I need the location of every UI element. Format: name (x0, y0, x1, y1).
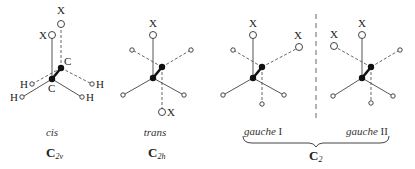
h-atom-back-right (90, 82, 94, 86)
h-atom-front-left (20, 95, 24, 99)
x-label-front: X (39, 29, 47, 41)
trans-conformer: X X trans C2h (121, 17, 193, 161)
c-label-front: C (48, 82, 55, 94)
front-bond-right (153, 78, 182, 94)
x-atom-front (250, 32, 257, 39)
gauche-point-group: C2 (309, 148, 322, 164)
conformer-diagram: X X C C H H H H cis C2v X X trans C2h (0, 0, 415, 169)
h-atom-front-left (121, 93, 125, 97)
gauche-2-name: gauche II (346, 125, 388, 137)
h-label-back-right: H (96, 78, 104, 90)
gauche-2-conformer: X X gauche II (330, 17, 402, 137)
front-carbon-atom (359, 75, 365, 81)
h-atom-back-right (398, 48, 402, 52)
cis-name: cis (46, 126, 58, 138)
back-bond-right (61, 68, 90, 83)
front-carbon-atom (150, 75, 156, 81)
back-bond-left (34, 68, 61, 83)
back-bond-upper-left (235, 51, 262, 67)
front-bond-right (52, 79, 80, 96)
h-label-front-right: H (86, 91, 94, 103)
front-carbon-atom (250, 75, 256, 81)
gauche-1-conformer: X X gauche I (221, 17, 303, 137)
x-atom-back (296, 44, 303, 51)
h-label-back-left: H (20, 78, 28, 90)
front-bond-right (362, 78, 391, 95)
x-label-front: X (249, 17, 257, 29)
h-label-front-left: H (10, 91, 18, 103)
x-atom-front (49, 32, 56, 39)
h-atom-front-right (80, 95, 84, 99)
x-label-back: X (167, 106, 175, 118)
x-label-back: X (57, 4, 65, 16)
back-carbon-atom (159, 64, 165, 70)
front-bond-left (125, 78, 153, 94)
front-bond-left (335, 78, 362, 95)
back-bond-upper-right (262, 49, 296, 67)
back-bond-upper-left (337, 48, 371, 67)
trans-point-group: C2h (148, 145, 165, 161)
h-atom-front-right (182, 93, 186, 97)
front-bond-left (225, 78, 253, 94)
back-bond-upper-right (371, 51, 398, 67)
gauche-1-name: gauche I (244, 125, 283, 137)
back-carbon-atom (259, 64, 265, 70)
h-atom-front-left (221, 93, 225, 97)
h-atom-back-down (369, 101, 373, 105)
back-bond-upper-left (134, 51, 162, 67)
back-bond-upper-right (162, 51, 189, 67)
x-atom-front (150, 32, 157, 39)
x-label-back: X (330, 28, 338, 40)
h-atom-front-right (391, 94, 395, 98)
h-atom-back-right (189, 48, 193, 52)
back-carbon-atom (368, 64, 374, 70)
h-atom-back-down (260, 102, 264, 106)
trans-name: trans (144, 126, 167, 138)
front-bond-right (253, 78, 282, 94)
x-label-back: X (294, 29, 302, 41)
x-atom-back (58, 21, 65, 28)
h-atom-back-left (231, 48, 235, 52)
h-atom-back-left (130, 48, 134, 52)
x-atom-front (359, 32, 366, 39)
h-atom-back-left (30, 82, 34, 86)
cis-point-group: C2v (46, 145, 63, 161)
x-label-front: X (358, 17, 366, 29)
x-atom-back (331, 43, 338, 50)
h-atom-front-left (331, 94, 335, 98)
h-atom-front-right (282, 93, 286, 97)
gauche-group-brace (243, 136, 389, 147)
x-label-front: X (149, 17, 157, 29)
x-atom-back (159, 109, 166, 116)
cis-conformer: X X C C H H H H cis C2v (10, 4, 104, 161)
c-label-back: C (64, 55, 71, 67)
